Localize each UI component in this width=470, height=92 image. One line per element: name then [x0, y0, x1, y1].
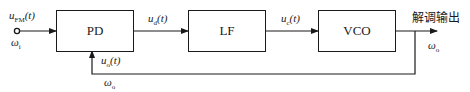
ud-signal-label: ud(t) — [148, 13, 167, 27]
lf-label: LF — [219, 23, 234, 39]
output-frequency-label: ωo — [428, 40, 439, 54]
uc-signal-label: uc(t) — [281, 13, 300, 27]
pd-label: PD — [87, 23, 104, 39]
lf-block: LF — [188, 10, 266, 52]
pd-block: PD — [56, 10, 134, 52]
vco-label: VCO — [343, 23, 370, 39]
feedback-frequency-label: ωo — [104, 77, 115, 91]
input-signal-label: uFM(t) — [9, 10, 35, 24]
input-frequency-label: ωi — [11, 37, 21, 51]
uo-signal-label: uo(t) — [101, 55, 120, 69]
output-label: 解调输出 — [412, 12, 460, 24]
input-terminal — [14, 28, 19, 33]
vco-block: VCO — [318, 10, 396, 52]
